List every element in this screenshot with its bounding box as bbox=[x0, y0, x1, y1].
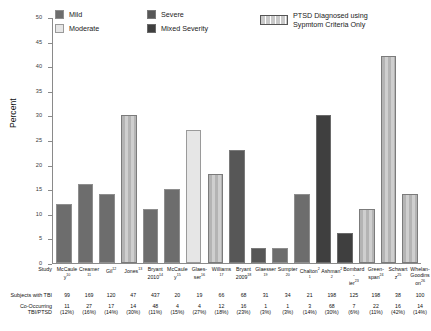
bar-slot bbox=[248, 18, 270, 263]
y-tick-label: 40 bbox=[36, 65, 42, 71]
y-tick: 25 bbox=[48, 141, 52, 142]
study-table: Study McCauley10Creamer11Gil12Jones13Bry… bbox=[0, 266, 431, 315]
cooccurring-count-cell: 22(11%) bbox=[365, 303, 387, 315]
study-ref: 16 bbox=[201, 273, 205, 277]
study-ref: 18 bbox=[247, 273, 251, 277]
y-tick-label: 20 bbox=[36, 163, 42, 169]
cooccurring-percent: (27%) bbox=[189, 309, 210, 315]
cooccurring-percent: (30%) bbox=[123, 309, 144, 315]
y-tick: 20 bbox=[48, 166, 52, 167]
bar-slot bbox=[140, 18, 162, 263]
study-name-cell: Green-span24 bbox=[365, 266, 387, 286]
cooccurring-percent: (12%) bbox=[56, 309, 77, 315]
table-row-cooccurring: Co-Occurring TBI/PTSD 11(12%)27(16%)17(1… bbox=[0, 303, 431, 315]
study-name-part: Williams bbox=[212, 266, 231, 272]
bar-slot bbox=[378, 18, 400, 263]
study-name-cell: Sumpter20 bbox=[277, 266, 299, 286]
y-tick: 15 bbox=[48, 190, 52, 191]
y-tick-label: 15 bbox=[36, 188, 42, 194]
study-name-part: Sumpter bbox=[278, 266, 298, 272]
row-label-study: Study bbox=[0, 266, 56, 272]
bar-mild[interactable] bbox=[272, 248, 288, 263]
cooccurring-count-cell: 16(42%) bbox=[387, 303, 409, 315]
study-name-cell: Creamer11 bbox=[78, 266, 100, 286]
study-ref: 15 bbox=[177, 273, 181, 277]
cooccurring-count-cell: 17(14%) bbox=[100, 303, 122, 315]
study-ref: 13 bbox=[138, 267, 142, 271]
bar-mild[interactable] bbox=[164, 189, 180, 263]
bar-slot bbox=[53, 18, 75, 263]
cooccurring-count-cell: 12(18%) bbox=[210, 303, 232, 315]
table-row-subjects: Subjects with TBI 9916912047437201966683… bbox=[0, 292, 431, 298]
y-tick: 10 bbox=[48, 215, 52, 216]
study-ref: 11 bbox=[87, 273, 91, 277]
bar-mixed[interactable] bbox=[337, 233, 353, 263]
study-ref: 12 bbox=[112, 267, 116, 271]
bar-severe[interactable] bbox=[251, 248, 267, 263]
bar-slot bbox=[183, 18, 205, 263]
study-name-cell: McCauley15 bbox=[166, 266, 188, 286]
row-label-cooccurring: Co-Occurring TBI/PTSD bbox=[0, 303, 56, 315]
study-name-cell: McCauley10 bbox=[56, 266, 78, 286]
study-name-part: 2010 bbox=[148, 274, 160, 280]
bar-moderate[interactable] bbox=[186, 130, 202, 263]
table-row-study: Study McCauley10Creamer11Gil12Jones13Bry… bbox=[0, 266, 431, 286]
bar-hatch[interactable] bbox=[121, 115, 137, 263]
study-name-part: Ashman bbox=[321, 268, 340, 274]
bar-slot bbox=[204, 18, 226, 263]
cooccurring-count-cell: 14(14%) bbox=[409, 303, 431, 315]
bar-severe[interactable] bbox=[229, 150, 245, 263]
study-name-cell: Williams17 bbox=[210, 266, 232, 286]
y-tick-label: 30 bbox=[36, 114, 42, 120]
subjects-count-cell: 100 bbox=[409, 292, 431, 298]
cooccurring-count-cell: 27(16%) bbox=[78, 303, 100, 315]
subjects-count-cell: 20 bbox=[166, 292, 188, 298]
bar-hatch[interactable] bbox=[402, 194, 418, 263]
subjects-count-cell: 99 bbox=[56, 292, 78, 298]
cooccurring-percent: (15%) bbox=[167, 309, 188, 315]
y-tick: 45 bbox=[48, 43, 52, 44]
study-name-cell: Ashman22 bbox=[321, 266, 343, 286]
study-name-part: span bbox=[368, 274, 379, 280]
bar-hatch[interactable] bbox=[381, 56, 397, 263]
x-axis-line bbox=[52, 263, 421, 264]
cooccurring-percent: (18%) bbox=[211, 309, 232, 315]
plot-area: 05101520253035404550 bbox=[52, 18, 421, 264]
subjects-count-cell: 31 bbox=[255, 292, 277, 298]
study-ref: 24 bbox=[380, 273, 384, 277]
bar-slot bbox=[334, 18, 356, 263]
study-name-part: Bryant bbox=[148, 266, 163, 272]
subjects-count-cell: 19 bbox=[188, 292, 210, 298]
study-name-part: Glaes- bbox=[192, 266, 207, 272]
y-tick-label: 10 bbox=[36, 212, 42, 218]
y-tick-label: 5 bbox=[39, 237, 42, 243]
bar-mild[interactable] bbox=[143, 209, 159, 263]
study-ref: 17 bbox=[219, 273, 223, 277]
subjects-count-cell: 169 bbox=[78, 292, 100, 298]
study-name-part: Bryant bbox=[236, 266, 251, 272]
bar-hatch[interactable] bbox=[359, 209, 375, 263]
bar-slot bbox=[161, 18, 183, 263]
cooccurring-percent: (6%) bbox=[343, 309, 364, 315]
y-tick-label: 45 bbox=[36, 40, 42, 46]
bar-mild[interactable] bbox=[294, 194, 310, 263]
cooccurring-percent: (3%) bbox=[255, 309, 276, 315]
bar-hatch[interactable] bbox=[208, 174, 224, 263]
chart-root: Mild Moderate Severe Mixed Severity PTSD… bbox=[0, 0, 431, 331]
row-label-cooccurring-line1: Co-Occurring bbox=[20, 303, 52, 309]
bar-slot bbox=[96, 18, 118, 263]
study-name-part: Glaesser bbox=[255, 266, 276, 272]
study-name-cell: Glaesser19 bbox=[255, 266, 277, 286]
subjects-count-cell: 47 bbox=[122, 292, 144, 298]
y-tick: 0 bbox=[48, 264, 52, 265]
bar-mild[interactable] bbox=[99, 194, 115, 263]
cooccurring-percent: (3%) bbox=[277, 309, 298, 315]
bar-mixed[interactable] bbox=[316, 115, 332, 263]
study-name-cell: Whelan-Goodinson26 bbox=[409, 266, 431, 286]
study-name-cells: McCauley10Creamer11Gil12Jones13Bryant201… bbox=[56, 266, 431, 286]
subjects-count-cell: 198 bbox=[365, 292, 387, 298]
bar-mild[interactable] bbox=[56, 204, 72, 263]
bar-mild[interactable] bbox=[78, 184, 94, 263]
y-tick-label: 50 bbox=[36, 15, 42, 21]
subjects-count-cell: 437 bbox=[144, 292, 166, 298]
